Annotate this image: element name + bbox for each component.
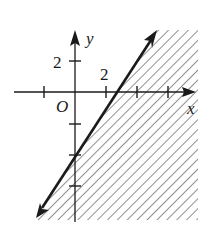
x-tick-label: 2	[100, 65, 109, 84]
x-axis	[14, 86, 196, 98]
inequality-graph: y x O 2 2	[0, 0, 216, 237]
y-axis-label: y	[84, 29, 94, 48]
y-tick-label: 2	[53, 53, 62, 72]
x-axis-label: x	[186, 99, 195, 118]
origin-label: O	[56, 97, 68, 116]
